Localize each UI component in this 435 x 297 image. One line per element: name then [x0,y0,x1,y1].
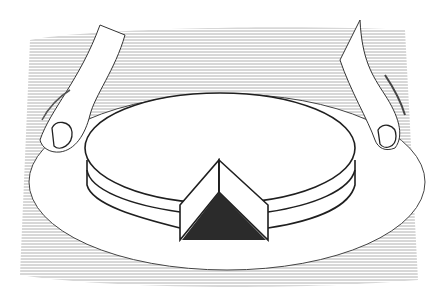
cake [85,93,355,240]
illustration [0,0,435,297]
